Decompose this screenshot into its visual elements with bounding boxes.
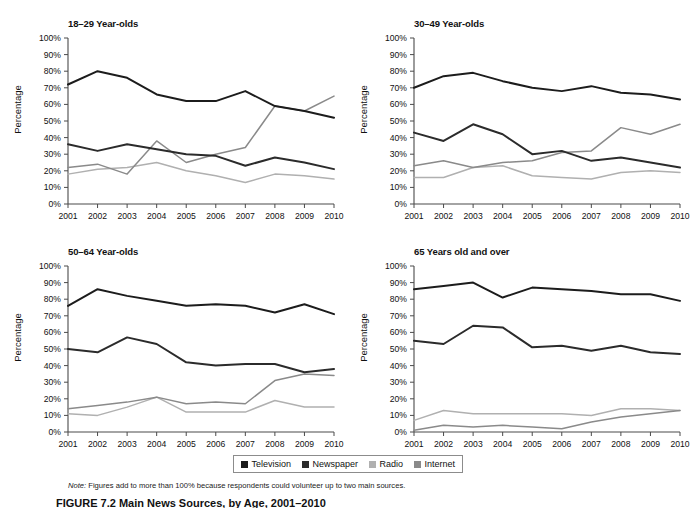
series-line-internet [68, 374, 334, 409]
x-tick-label: 2010 [324, 211, 343, 221]
x-tick-label: 2009 [641, 439, 660, 449]
y-tick-label: 90% [44, 50, 62, 60]
x-tick-label: 2002 [88, 439, 107, 449]
x-tick-label: 2001 [58, 211, 77, 221]
series-line-radio [68, 163, 334, 183]
x-tick-label: 2005 [177, 211, 196, 221]
x-tick-label: 2004 [493, 439, 512, 449]
x-tick-label: 2010 [670, 439, 689, 449]
y-tick-label: 50% [44, 116, 62, 126]
legend-swatch-newspaper [302, 461, 309, 468]
x-tick-label: 2007 [236, 439, 255, 449]
series-line-newspaper [68, 337, 334, 372]
x-tick-label: 2003 [464, 211, 483, 221]
x-tick-label: 2002 [434, 439, 453, 449]
y-tick-label: 10% [390, 410, 408, 420]
chart-legend: Television Newspaper Radio Internet [233, 455, 463, 473]
x-tick-label: 2010 [670, 211, 689, 221]
x-tick-label: 2005 [177, 439, 196, 449]
y-tick-label: 90% [390, 278, 408, 288]
plot-area: 0%10%20%30%40%50%60%70%80%90%100%2001200… [346, 236, 691, 464]
x-tick-label: 2004 [147, 211, 166, 221]
y-tick-label: 90% [44, 278, 62, 288]
x-tick-label: 2005 [523, 211, 542, 221]
y-tick-label: 70% [390, 83, 408, 93]
y-tick-label: 0% [49, 427, 62, 437]
x-tick-label: 2002 [434, 211, 453, 221]
x-tick-label: 2008 [611, 211, 630, 221]
x-tick-label: 2009 [641, 211, 660, 221]
legend-swatch-television [241, 461, 248, 468]
figure-root: 18–29 Year-olds Percentage 0%10%20%30%40… [0, 0, 691, 508]
legend-swatch-radio [369, 461, 376, 468]
x-tick-label: 2001 [58, 439, 77, 449]
y-tick-label: 70% [44, 311, 62, 321]
y-tick-label: 60% [390, 99, 408, 109]
y-tick-label: 50% [44, 344, 62, 354]
y-tick-label: 10% [390, 182, 408, 192]
y-tick-label: 0% [395, 427, 408, 437]
y-tick-label: 80% [390, 66, 408, 76]
chart-panel-18-29: 18–29 Year-olds Percentage 0%10%20%30%40… [0, 8, 345, 236]
plot-area: 0%10%20%30%40%50%60%70%80%90%100%2001200… [0, 236, 345, 464]
x-tick-label: 2007 [582, 439, 601, 449]
y-tick-label: 20% [390, 394, 408, 404]
x-tick-label: 2009 [295, 211, 314, 221]
x-tick-label: 2004 [147, 439, 166, 449]
y-tick-label: 60% [44, 327, 62, 337]
x-tick-label: 2007 [236, 211, 255, 221]
y-tick-label: 80% [44, 294, 62, 304]
legend-label: Newspaper [313, 459, 359, 469]
y-tick-label: 50% [390, 116, 408, 126]
series-line-newspaper [414, 326, 680, 354]
y-tick-label: 40% [44, 133, 62, 143]
series-line-radio [68, 397, 334, 415]
y-tick-label: 0% [49, 199, 62, 209]
y-tick-label: 30% [44, 377, 62, 387]
legend-label: Radio [380, 459, 404, 469]
series-line-television [68, 71, 334, 117]
x-tick-label: 2006 [206, 211, 225, 221]
x-tick-label: 2002 [88, 211, 107, 221]
y-tick-label: 10% [44, 410, 62, 420]
series-line-radio [414, 166, 680, 179]
x-tick-label: 2004 [493, 211, 512, 221]
x-tick-label: 2001 [404, 211, 423, 221]
y-tick-label: 80% [44, 66, 62, 76]
y-tick-label: 40% [44, 361, 62, 371]
y-tick-label: 40% [390, 133, 408, 143]
y-tick-label: 100% [385, 33, 407, 43]
y-tick-label: 20% [390, 166, 408, 176]
x-tick-label: 2003 [118, 439, 137, 449]
y-tick-label: 30% [390, 377, 408, 387]
x-tick-label: 2010 [324, 439, 343, 449]
x-tick-label: 2006 [552, 439, 571, 449]
y-tick-label: 40% [390, 361, 408, 371]
y-tick-label: 60% [44, 99, 62, 109]
x-tick-label: 2008 [611, 439, 630, 449]
legend-item-internet: Internet [414, 459, 455, 469]
y-tick-label: 90% [390, 50, 408, 60]
series-line-newspaper [414, 124, 680, 167]
x-tick-label: 2009 [295, 439, 314, 449]
x-tick-label: 2003 [464, 439, 483, 449]
plot-area: 0%10%20%30%40%50%60%70%80%90%100%2001200… [346, 8, 691, 236]
x-tick-label: 2005 [523, 439, 542, 449]
series-line-newspaper [68, 144, 334, 169]
figure-caption: FIGURE 7.2 Main News Sources, by Age, 20… [56, 497, 326, 508]
legend-item-newspaper: Newspaper [302, 459, 358, 469]
legend-item-radio: Radio [369, 459, 403, 469]
y-tick-label: 30% [390, 149, 408, 159]
y-tick-label: 70% [390, 311, 408, 321]
legend-label: Internet [425, 459, 456, 469]
chart-panel-50-64: 50–64 Year-olds Percentage 0%10%20%30%40… [0, 236, 345, 464]
figure-note-label: Note: [68, 481, 86, 490]
legend-label: Television [252, 459, 292, 469]
x-tick-label: 2007 [582, 211, 601, 221]
y-tick-label: 20% [44, 394, 62, 404]
y-tick-label: 70% [44, 83, 62, 93]
plot-area: 0%10%20%30%40%50%60%70%80%90%100%2001200… [0, 8, 345, 236]
y-tick-label: 60% [390, 327, 408, 337]
y-tick-label: 10% [44, 182, 62, 192]
y-tick-label: 0% [395, 199, 408, 209]
